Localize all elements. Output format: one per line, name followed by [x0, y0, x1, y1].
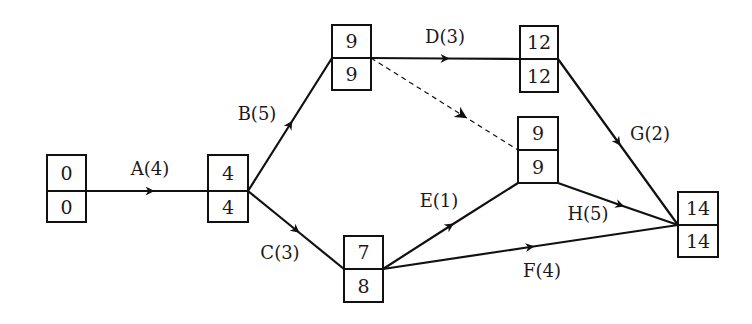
node-earliest-time: 14 — [686, 197, 710, 219]
node-latest-time: 9 — [345, 63, 357, 85]
node-14-14: 14 14 — [678, 192, 718, 257]
edge-label-G: G(2) — [630, 123, 670, 144]
node-earliest-time: 4 — [222, 162, 234, 184]
node-latest-time: 12 — [527, 65, 551, 87]
node-latest-time: 4 — [222, 196, 234, 218]
edge-label-H: H(5) — [567, 203, 608, 224]
edge-label-A: A(4) — [130, 158, 170, 179]
node-4-4: 4 4 — [208, 155, 248, 222]
node-7-8: 7 8 — [344, 236, 383, 302]
node-earliest-time: 0 — [60, 162, 72, 184]
node-12-12: 12 12 — [520, 26, 558, 92]
edge-D — [371, 58, 520, 59]
node-0-0: 0 0 — [47, 155, 86, 222]
network-diagram: A(4) B(5) C(3) D(3) E(1) F(4) G(2) H(5) … — [0, 0, 752, 324]
node-latest-time: 14 — [686, 230, 710, 252]
edge-label-C: C(3) — [260, 242, 299, 263]
edge-label-F: F(4) — [523, 260, 561, 281]
node-latest-time: 0 — [60, 196, 72, 218]
node-earliest-time: 7 — [357, 241, 369, 263]
edge-label-D: D(3) — [425, 26, 465, 47]
node-latest-time: 9 — [532, 156, 544, 178]
edge-label-B: B(5) — [238, 103, 277, 124]
node-earliest-time: 9 — [345, 30, 357, 52]
node-latest-time: 8 — [357, 275, 369, 297]
node-9-9-top: 9 9 — [332, 25, 371, 90]
edge-label-E: E(1) — [420, 190, 459, 211]
node-9-9-middle: 9 9 — [518, 117, 558, 183]
node-earliest-time: 12 — [527, 31, 551, 53]
edge-B — [248, 58, 332, 191]
edge-dummy — [371, 58, 518, 150]
node-earliest-time: 9 — [532, 122, 544, 144]
